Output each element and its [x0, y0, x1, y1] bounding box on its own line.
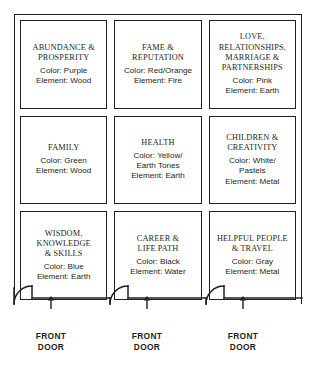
arrow-up-icon: [239, 296, 247, 309]
bagua-cell-health[interactable]: HEALTH Color: Yellow/ Earth Tones Elemen…: [114, 116, 201, 205]
bagua-cell-love-relationships-marriage-partnerships[interactable]: LOVE, RELATIONSHIPS, MARRIAGE & PARTNERS…: [209, 20, 296, 109]
front-door-label-3: FRONT DOOR: [206, 310, 280, 352]
cell-element-line: Element: Wood: [36, 76, 91, 86]
cell-element-line: Element: Water: [130, 267, 185, 277]
cell-element-line: Element: Earth: [37, 272, 91, 282]
front-door-text: FRONT DOOR: [228, 331, 258, 352]
front-door-label-1: FRONT DOOR: [14, 310, 88, 352]
bagua-cell-abundance-prosperity[interactable]: ABUNDANCE & PROSPERITY Color: Purple Ele…: [20, 20, 107, 109]
cell-title: HELPFUL PEOPLE & TRAVEL: [217, 234, 288, 254]
cell-color-line: Color: Gray: [232, 257, 273, 267]
cell-element-line: Element: Metal: [225, 267, 279, 277]
cell-element-line: Element: Wood: [36, 166, 91, 176]
bagua-map-diagram: ABUNDANCE & PROSPERITY Color: Purple Ele…: [0, 0, 316, 365]
front-door-text: FRONT DOOR: [132, 331, 162, 352]
arrow-up-icon: [143, 296, 151, 309]
cell-element-line: Element: Earth: [131, 171, 185, 181]
bagua-cell-family[interactable]: FAMILY Color: Green Element: Wood: [20, 116, 107, 205]
bagua-cell-children-creativity[interactable]: CHILDREN & CREATIVITY Color: White/ Past…: [209, 116, 296, 205]
cell-title: ABUNDANCE & PROSPERITY: [33, 43, 95, 63]
bagua-cell-fame-reputation[interactable]: FAME & REPUTATION Color: Red/Orange Elem…: [114, 20, 201, 109]
bagua-cell-helpful-people-travel[interactable]: HELPFUL PEOPLE & TRAVEL Color: Gray Elem…: [209, 211, 296, 300]
cell-title: WISDOM, KNOWLEDGE & SKILLS: [36, 229, 90, 260]
cell-element-line: Element: Earth: [226, 86, 280, 96]
cell-color-line: Color: White/ Pastels: [229, 156, 276, 176]
cell-element-line: Element: Metal: [225, 177, 279, 187]
cell-color-line: Color: Yellow/ Earth Tones: [133, 151, 182, 171]
front-door-text: FRONT DOOR: [36, 331, 66, 352]
cell-color-line: Color: Purple: [40, 66, 87, 76]
cell-color-line: Color: Pink: [233, 76, 273, 86]
bagua-cell-career-life-path[interactable]: CAREER & LIFE PATH Color: Black Element:…: [114, 211, 201, 300]
cell-color-line: Color: Black: [136, 257, 180, 267]
bagua-cell-wisdom-knowledge-skills[interactable]: WISDOM, KNOWLEDGE & SKILLS Color: Blue E…: [20, 211, 107, 300]
cell-title: HEALTH: [141, 138, 174, 148]
cell-color-line: Color: Blue: [44, 262, 84, 272]
cell-element-line: Element: Fire: [134, 76, 182, 86]
cell-title: FAME & REPUTATION: [132, 43, 184, 63]
front-door-labels: FRONT DOOR FRONT DOOR FRONT DOOR: [14, 310, 302, 354]
cell-title: FAMILY: [48, 143, 79, 153]
front-door-label-2: FRONT DOOR: [110, 310, 184, 352]
cell-title: CAREER & LIFE PATH: [137, 234, 179, 254]
cell-title: LOVE, RELATIONSHIPS, MARRIAGE & PARTNERS…: [219, 32, 286, 73]
cell-title: CHILDREN & CREATIVITY: [226, 133, 278, 153]
cell-color-line: Color: Green: [40, 156, 86, 166]
arrow-up-icon: [47, 296, 55, 309]
bagua-grid: ABUNDANCE & PROSPERITY Color: Purple Ele…: [20, 20, 296, 300]
cell-color-line: Color: Red/Orange: [124, 66, 192, 76]
